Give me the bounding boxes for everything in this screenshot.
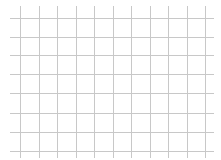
- grid-vertical-line: [168, 6, 169, 158]
- grid-vertical-line: [187, 6, 188, 158]
- grid-horizontal-line: [10, 132, 214, 133]
- grid-horizontal-line: [10, 113, 214, 114]
- grid-vertical-line: [150, 6, 151, 158]
- grid-horizontal-line: [10, 37, 214, 38]
- grid-vertical-line: [113, 6, 114, 158]
- grid-vertical-line: [57, 6, 58, 158]
- grid-vertical-line: [76, 6, 77, 158]
- grid-vertical-line: [20, 6, 21, 158]
- grid-horizontal-line: [10, 18, 214, 19]
- grid-vertical-line: [131, 6, 132, 158]
- grid-horizontal-line: [10, 93, 214, 94]
- grid-vertical-line: [94, 6, 95, 158]
- grid-horizontal-line: [10, 55, 214, 56]
- grid-horizontal-line: [10, 74, 214, 75]
- grid-horizontal-line: [10, 151, 214, 152]
- grid-vertical-line: [39, 6, 40, 158]
- grid-vertical-line: [205, 6, 206, 158]
- grid-canvas: [0, 0, 221, 160]
